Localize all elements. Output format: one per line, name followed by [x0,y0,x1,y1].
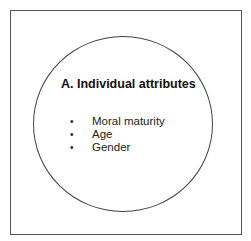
list-item-label: Moral maturity [92,115,165,128]
section-title: A. Individual attributes [61,77,196,91]
bullet-icon: • [70,115,78,128]
bullet-icon: • [70,141,78,154]
list-item-label: Age [92,128,112,141]
list-item-label: Gender [92,141,130,154]
bullet-icon: • [70,128,78,141]
